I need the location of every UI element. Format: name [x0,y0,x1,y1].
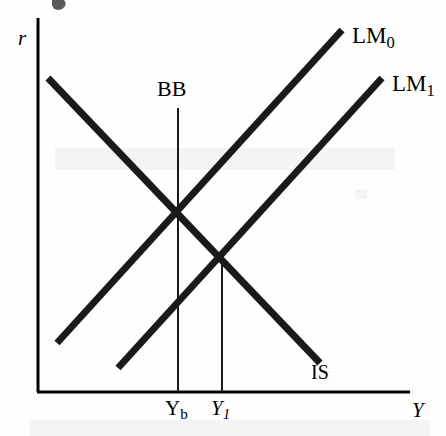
cropped-top-glyph [52,0,66,10]
tick-label-yb-base: Y [165,396,180,420]
tick-label-yb-subscript: b [180,406,188,422]
y-axis-label-text: r [18,26,26,50]
bb-label-text: BB [157,76,186,101]
lm0-label-subscript: 0 [387,33,395,52]
lm0-curve [57,30,342,343]
tick-label-y1: Y1 [211,398,230,422]
bb-label: BB [157,78,186,100]
diagram-canvas [0,0,446,436]
x-axis-label: Y [412,400,424,421]
is-label-text: IS [311,361,329,383]
y-axis-label: r [18,28,26,49]
lm1-curve [118,78,382,368]
tick-label-y1-subscript: 1 [223,406,231,422]
is-lm-bb-diagram: r Y LM0 LM1 BB IS Yb Y1 [0,0,446,436]
x-axis-label-text: Y [412,398,424,422]
lm0-label: LM0 [352,24,395,51]
lm1-label-subscript: 1 [427,81,435,100]
is-label: IS [311,362,329,382]
lm1-label: LM1 [392,72,435,99]
lm1-label-text: LM [392,71,427,96]
lm0-label-text: LM [352,23,387,48]
is-curve [48,78,320,363]
tick-label-y1-base: Y [211,396,223,420]
tick-label-yb: Yb [165,398,188,422]
